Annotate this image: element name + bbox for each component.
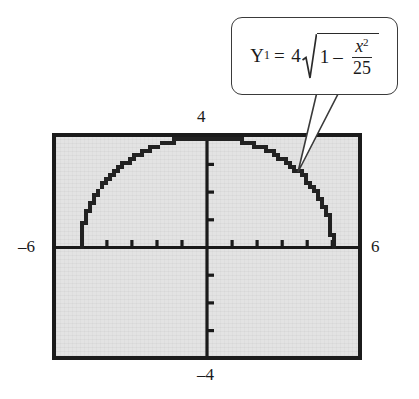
equation-callout-box: Y1 = 4 1 – x2 25 — [231, 17, 398, 95]
fraction-group: x2 25 — [350, 37, 374, 76]
window-label-ymax: 4 — [197, 108, 206, 125]
window-label-ymin: –4 — [197, 366, 214, 383]
fraction-denominator: 25 — [350, 58, 374, 77]
window-label-xmax: 6 — [371, 238, 380, 255]
radicand-leading-term: 1 — [320, 46, 330, 68]
numerator-exponent: 2 — [363, 36, 369, 48]
equation-lhs-variable: Y — [250, 45, 264, 67]
radicand-group: 1 – x2 25 — [317, 33, 379, 79]
equation-coefficient: 4 — [291, 45, 301, 67]
equation-equals-sign: = — [274, 45, 285, 67]
radical-group: 1 – x2 25 — [302, 33, 379, 79]
calculator-graph-figure: 4 –4 –6 6 — [0, 0, 419, 399]
radicand-minus-sign: – — [333, 46, 343, 68]
calculator-screen — [52, 133, 362, 360]
equation-expression: Y1 = 4 1 – x2 25 — [250, 33, 379, 79]
numerator-variable: x — [355, 36, 363, 56]
plot-canvas — [56, 137, 358, 356]
fraction-numerator: x2 — [352, 37, 371, 57]
window-label-xmin: –6 — [18, 238, 35, 255]
axes-group — [56, 137, 358, 356]
radical-sign-icon — [302, 33, 317, 79]
equation-content: Y1 = 4 1 – x2 25 — [232, 18, 397, 94]
